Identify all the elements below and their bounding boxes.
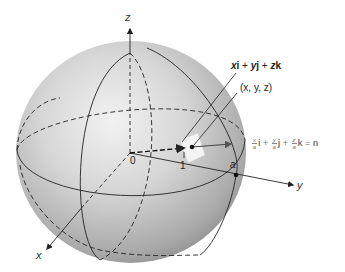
origin-label: 0 xyxy=(130,155,136,166)
frac-num: z xyxy=(292,137,297,144)
radius-point-a xyxy=(234,173,239,178)
surface-point xyxy=(190,145,195,150)
unit-tick-label: 1 xyxy=(180,160,186,171)
frac-z-over-a: za xyxy=(292,137,297,150)
frac-num: x xyxy=(252,137,257,144)
point-label: (x, y, z) xyxy=(240,82,272,93)
n-symbol: n xyxy=(313,138,319,148)
radius-label-a: a xyxy=(230,159,236,170)
frac-x-over-a: xa xyxy=(252,137,257,150)
pv-plus1: + xyxy=(239,60,250,71)
sphere-body xyxy=(16,41,246,263)
pv-plus2: + xyxy=(259,60,270,71)
frac-den: a xyxy=(252,144,257,150)
frac-num: y xyxy=(272,137,277,144)
sphere-diagram xyxy=(0,0,345,272)
pv-k: k xyxy=(276,60,282,71)
frac-y-over-a: ya xyxy=(272,137,277,150)
x-axis-label: x xyxy=(36,249,42,261)
n-plus2: + xyxy=(280,138,290,148)
n-eq: = xyxy=(303,138,313,148)
n-plus1: + xyxy=(261,138,271,148)
normal-vector-label: xai + yaj + zak = n xyxy=(251,137,318,150)
position-vector-label: xi + yj + zk xyxy=(231,60,281,71)
frac-den: a xyxy=(292,144,297,150)
y-axis-label: y xyxy=(297,179,303,191)
frac-den: a xyxy=(272,144,277,150)
z-axis-label: z xyxy=(125,11,131,23)
